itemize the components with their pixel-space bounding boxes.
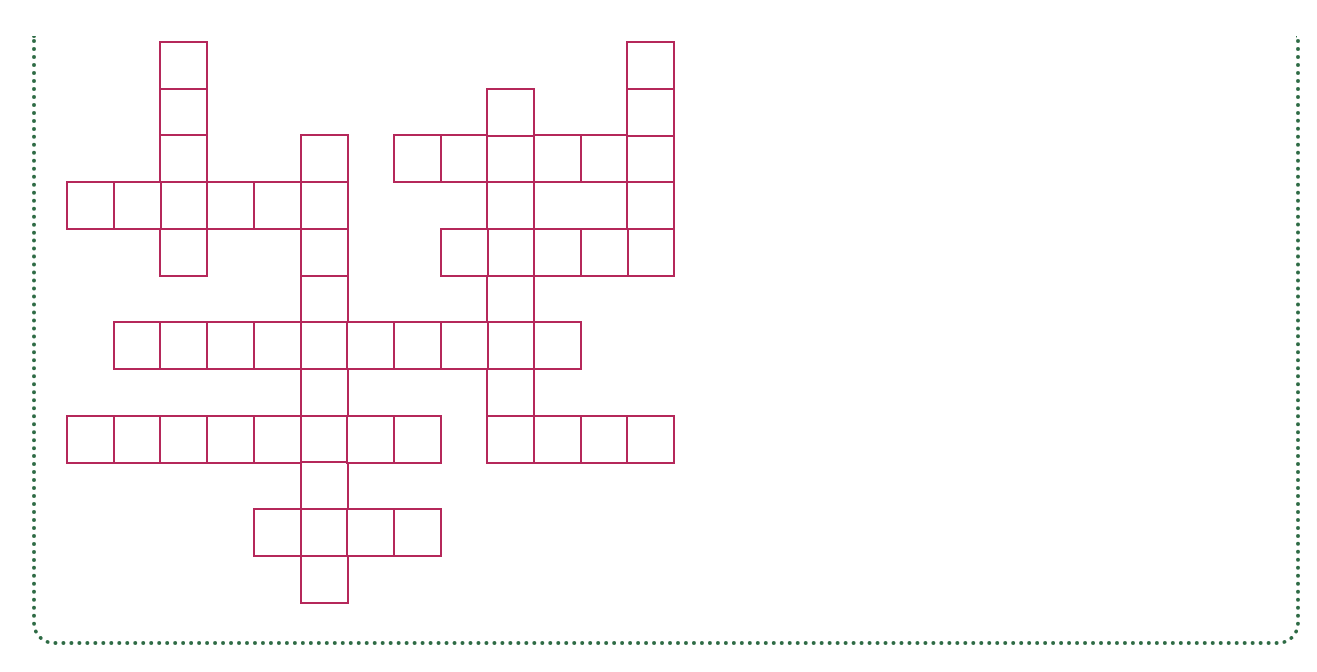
crossword-cell[interactable]: [626, 415, 675, 464]
crossword-cell[interactable]: [626, 228, 675, 277]
crossword-cell[interactable]: [300, 415, 349, 464]
crossword-cell[interactable]: [626, 181, 675, 230]
crossword-cell[interactable]: [486, 275, 535, 324]
crossword-cell[interactable]: [66, 415, 115, 464]
crossword-cell[interactable]: [486, 368, 535, 417]
crossword-cell[interactable]: [486, 415, 535, 464]
crossword-cell[interactable]: [159, 415, 208, 464]
crossword-cell[interactable]: [486, 321, 535, 370]
crossword-cell[interactable]: [626, 41, 675, 90]
crossword-cell[interactable]: [253, 508, 302, 557]
crossword-cell[interactable]: [626, 88, 675, 137]
crossword-cell[interactable]: [486, 228, 535, 277]
crossword-cell[interactable]: [393, 508, 442, 557]
crossword-cell[interactable]: [533, 321, 582, 370]
crossword-cell[interactable]: [159, 134, 208, 183]
crossword-cell[interactable]: [253, 415, 302, 464]
crossword-cell[interactable]: [300, 555, 349, 604]
crossword-cell[interactable]: [206, 321, 255, 370]
crossword-cell[interactable]: [300, 461, 349, 510]
crossword-cell[interactable]: [66, 181, 115, 230]
crossword-cell[interactable]: [300, 275, 349, 324]
crossword-cell[interactable]: [300, 368, 349, 417]
crossword-cell[interactable]: [533, 228, 582, 277]
crossword-cell[interactable]: [393, 415, 442, 464]
crossword-cell[interactable]: [346, 415, 395, 464]
crossword-cell[interactable]: [300, 321, 349, 370]
crossword-cell[interactable]: [486, 88, 535, 137]
crossword-cell[interactable]: [206, 181, 255, 230]
crossword-cell[interactable]: [253, 321, 302, 370]
crossword-cell[interactable]: [253, 181, 302, 230]
crossword-cell[interactable]: [393, 134, 442, 183]
crossword-cell[interactable]: [393, 321, 442, 370]
crossword-cell[interactable]: [580, 134, 629, 183]
crossword-cell[interactable]: [346, 321, 395, 370]
crossword-cell[interactable]: [113, 321, 162, 370]
crossword-cell[interactable]: [159, 321, 208, 370]
crossword-cell[interactable]: [113, 181, 162, 230]
crossword-cell[interactable]: [300, 508, 349, 557]
crossword-cell[interactable]: [159, 41, 208, 90]
crossword-cell[interactable]: [580, 415, 629, 464]
crossword-cell[interactable]: [346, 508, 395, 557]
crossword-cell[interactable]: [440, 228, 489, 277]
crossword-cell[interactable]: [300, 181, 349, 230]
crossword-cell[interactable]: [159, 228, 208, 277]
crossword-cell[interactable]: [440, 134, 489, 183]
crossword-cell[interactable]: [440, 321, 489, 370]
crossword-cell[interactable]: [206, 415, 255, 464]
crossword-cell[interactable]: [300, 228, 349, 277]
crossword-cell[interactable]: [159, 88, 208, 137]
crossword-grid: [0, 0, 1317, 672]
crossword-cell[interactable]: [300, 134, 349, 183]
crossword-cell[interactable]: [580, 228, 629, 277]
crossword-cell[interactable]: [486, 181, 535, 230]
crossword-cell[interactable]: [159, 181, 208, 230]
crossword-cell[interactable]: [626, 134, 675, 183]
crossword-cell[interactable]: [486, 134, 535, 183]
crossword-cell[interactable]: [533, 134, 582, 183]
crossword-cell[interactable]: [533, 415, 582, 464]
crossword-cell[interactable]: [113, 415, 162, 464]
